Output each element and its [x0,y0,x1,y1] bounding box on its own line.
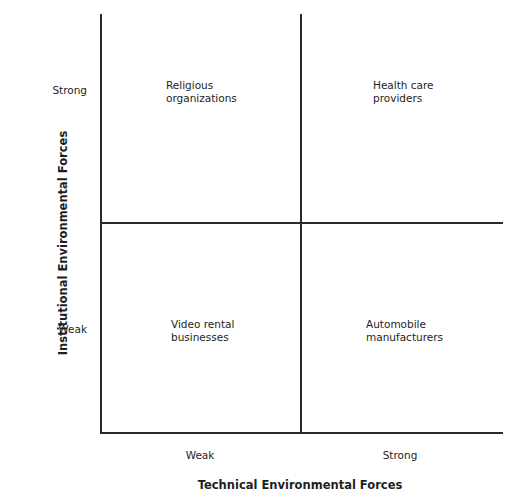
y-tick-weak: Weak [27,323,87,335]
matrix-frame-bottom [100,432,503,434]
y-tick-strong: Strong [27,84,87,96]
quadrant-label-line: Automobile [366,318,443,331]
quadrant-label-line: Religious [166,79,237,92]
quadrant-bottom-left: Video rental businesses [171,318,234,344]
matrix-divider-vertical [300,14,302,433]
quadrant-bottom-right: Automobile manufacturers [366,318,443,344]
quadrant-top-right: Health care providers [373,79,434,105]
matrix-frame-left [100,14,102,433]
quadrant-label-line: Health care [373,79,434,92]
x-tick-strong: Strong [350,449,450,461]
x-axis-title: Technical Environmental Forces [150,478,450,492]
quadrant-label-line: manufacturers [366,331,443,344]
quadrant-label-line: organizations [166,92,237,105]
matrix-divider-horizontal [100,222,503,224]
quadrant-label-line: businesses [171,331,234,344]
quadrant-label-line: providers [373,92,434,105]
x-tick-weak: Weak [150,449,250,461]
quadrant-top-left: Religious organizations [166,79,237,105]
quadrant-label-line: Video rental [171,318,234,331]
